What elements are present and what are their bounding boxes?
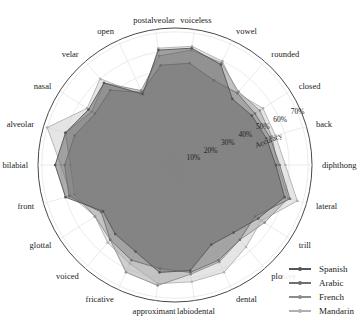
data-point (54, 164, 57, 167)
legend-item-arabic: Arabic (283, 276, 359, 290)
data-point (283, 196, 286, 199)
data-point (64, 196, 67, 199)
category-label-back: back (316, 119, 333, 129)
data-point (64, 132, 67, 135)
category-label-fricative: fricative (86, 294, 115, 304)
data-point (262, 107, 265, 110)
data-point (289, 197, 292, 200)
category-label-closed: closed (299, 81, 321, 91)
data-point (134, 250, 137, 253)
legend-item-mandarin: Mandarin (283, 304, 359, 318)
data-point (296, 200, 299, 203)
data-point (278, 164, 281, 167)
legend: Spanish Arabic French Mandarin (283, 262, 359, 326)
data-point (251, 114, 254, 117)
category-label-approximant: approximant (133, 306, 177, 316)
legend-label: Mandarin (319, 306, 354, 316)
legend-item-french: French (283, 290, 359, 304)
radar-series (46, 45, 299, 287)
radial-tick-label: 30% (221, 138, 235, 147)
category-label-diphthong: diphthong (322, 160, 357, 170)
data-point (284, 164, 287, 167)
radial-tick-label: 10% (186, 153, 200, 162)
radial-tick-label: 50% (256, 122, 270, 131)
category-label-dental: dental (236, 294, 257, 304)
data-point (102, 210, 105, 213)
legend-line-marker-icon (289, 282, 311, 284)
data-point (220, 63, 223, 66)
category-label-alveolar: alveolar (7, 119, 35, 129)
data-point (125, 271, 128, 274)
category-label-open: open (97, 26, 114, 36)
radial-tick-label: 70% (291, 107, 305, 116)
category-label-voiced: voiced (56, 271, 79, 281)
data-point (109, 238, 112, 241)
legend-line-marker-icon (289, 268, 311, 270)
data-point (232, 231, 235, 234)
data-point (263, 221, 266, 224)
category-label-vowel: vowel (236, 26, 257, 36)
data-point (156, 284, 159, 287)
data-point (103, 82, 106, 85)
category-label-postalveolar: postalveolar (133, 15, 175, 25)
data-point (87, 108, 90, 111)
radial-tick-label: 60% (273, 115, 287, 124)
data-point (259, 109, 262, 112)
data-point (190, 47, 193, 50)
legend-label: French (319, 292, 344, 302)
category-label-nasal: nasal (34, 81, 52, 91)
category-label-rounded: rounded (271, 49, 300, 59)
data-point (257, 217, 260, 220)
data-point (189, 269, 192, 272)
data-point (99, 77, 102, 80)
category-label-lateral: lateral (316, 201, 338, 211)
data-point (130, 259, 133, 262)
data-point (223, 271, 226, 274)
legend-line-marker-icon (289, 310, 311, 312)
legend-label: Spanish (319, 264, 348, 274)
radial-tick-label: 20% (204, 146, 218, 155)
legend-item-spanish: Spanish (283, 262, 359, 276)
data-point (190, 280, 193, 283)
category-label-front: front (17, 201, 34, 211)
data-point (275, 164, 278, 167)
data-point (231, 98, 234, 101)
data-point (114, 233, 117, 236)
data-point (210, 243, 213, 246)
data-point (254, 112, 257, 115)
legend-label: Arabic (319, 278, 344, 288)
data-point (236, 92, 239, 95)
category-label-trill: trill (299, 240, 312, 250)
category-label-velar: velar (62, 49, 79, 59)
category-label-glottal: glottal (30, 240, 52, 250)
data-point (158, 271, 161, 274)
data-point (245, 246, 248, 249)
data-point (106, 241, 109, 244)
data-point (141, 93, 144, 96)
legend-line-marker-icon (289, 296, 311, 298)
data-point (46, 126, 49, 129)
data-point (238, 238, 241, 241)
data-point (217, 259, 220, 262)
data-point (94, 215, 97, 218)
category-label-bilabial: bilabial (3, 160, 29, 170)
category-label-voiceless: voiceless (180, 15, 211, 25)
radial-tick-label: 40% (239, 130, 253, 139)
category-label-labiodental: labiodental (177, 306, 215, 316)
data-point (157, 49, 160, 52)
